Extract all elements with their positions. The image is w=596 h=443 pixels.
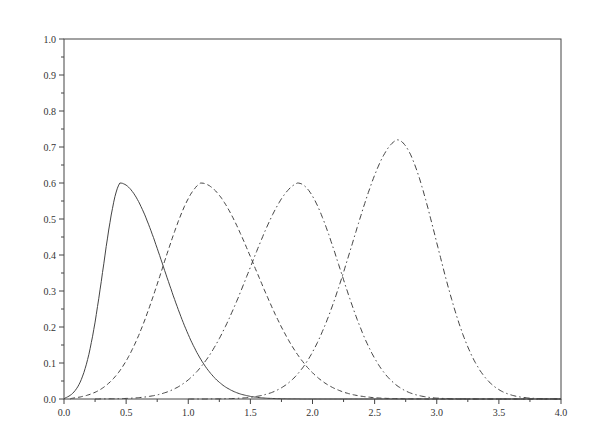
y-tick-label: 0.3 (44, 286, 57, 297)
y-tick-label: 1.0 (44, 34, 57, 45)
x-tick-label: 2.5 (368, 407, 381, 418)
y-tick-label: 0.7 (44, 142, 57, 153)
x-tick-label: 0.0 (58, 407, 71, 418)
y-tick-label: 0.0 (44, 394, 57, 405)
y-tick-label: 0.6 (44, 178, 57, 189)
y-tick-label: 0.4 (44, 250, 57, 261)
y-tick-label: 0.1 (44, 358, 57, 369)
y-tick-label: 0.5 (44, 214, 57, 225)
x-tick-label: 2.0 (306, 407, 319, 418)
x-tick-label: 4.0 (555, 407, 568, 418)
y-tick-label: 0.2 (44, 322, 57, 333)
x-tick-label: 1.0 (182, 407, 195, 418)
y-tick-label: 0.9 (44, 70, 57, 81)
chart: 0.00.10.20.30.40.50.60.70.80.91.0 0.00.5… (0, 0, 596, 443)
plot-area (64, 39, 561, 399)
x-tick-label: 3.0 (431, 407, 444, 418)
x-tick-label: 1.5 (244, 407, 257, 418)
y-tick-label: 0.8 (44, 106, 57, 117)
y-axis: 0.00.10.20.30.40.50.60.70.80.91.0 (44, 34, 65, 405)
x-axis: 0.00.51.01.52.02.53.03.54.0 (58, 399, 568, 418)
x-tick-label: 0.5 (120, 407, 133, 418)
x-tick-label: 3.5 (493, 407, 506, 418)
